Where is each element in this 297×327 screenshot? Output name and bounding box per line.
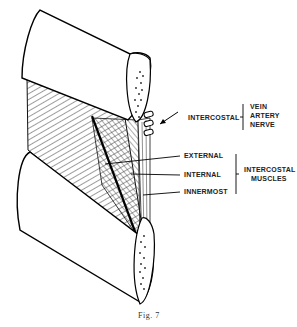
muscles-bracket	[236, 154, 239, 194]
external-label: EXTERNAL	[184, 152, 223, 160]
intercostal-label: INTERCOSTAL	[188, 114, 239, 122]
intercostal-muscles-label-line2: MUSCLES	[251, 175, 287, 183]
artery-label: ARTERY	[250, 112, 280, 120]
lower-rib-cross-section	[134, 218, 154, 304]
upper-rib-cross-section	[127, 53, 151, 122]
internal-label: INTERNAL	[184, 171, 221, 179]
rib-illustration	[0, 0, 297, 327]
vein-label: VEIN	[250, 103, 267, 111]
innermost-label: INNERMOST	[184, 188, 228, 196]
vessels-bracket	[240, 104, 243, 130]
figure-caption: Fig. 7	[138, 311, 160, 320]
nerve-label: NERVE	[250, 121, 275, 129]
intercostal-muscles-label-line1: INTERCOSTAL	[244, 166, 295, 174]
